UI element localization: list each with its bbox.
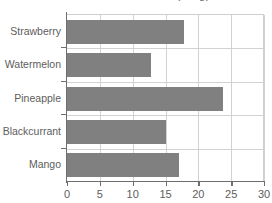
- y-axis-category-label: Blackcurrant: [3, 125, 61, 137]
- bar: [67, 87, 223, 111]
- x-axis-tick-label: 25: [225, 187, 237, 201]
- x-gridline: [264, 15, 265, 182]
- plot-area: [67, 14, 264, 181]
- bar: [67, 153, 179, 177]
- y-axis-category-label: Pineapple: [14, 92, 61, 104]
- x-axis-tick-label: 10: [127, 187, 139, 201]
- y-axis-labels: StrawberryWatermelonPineappleBlackcurran…: [0, 14, 63, 181]
- y-axis-category-label: Watermelon: [5, 58, 61, 70]
- x-axis-tick-label: 20: [192, 187, 204, 201]
- x-axis-tick: [264, 181, 265, 186]
- x-axis-tick: [100, 181, 101, 186]
- x-gridline: [231, 15, 232, 182]
- x-axis-tick: [198, 181, 199, 186]
- category-separator-line: [67, 48, 264, 49]
- bar: [67, 120, 166, 144]
- x-axis-tick: [166, 181, 167, 186]
- x-axis-tick: [133, 181, 134, 186]
- x-axis-tick-label: 15: [159, 187, 171, 201]
- x-axis-tick-label: 30: [258, 187, 270, 201]
- category-separator-line: [67, 82, 264, 83]
- y-axis-tick: [61, 47, 67, 48]
- chart-title: Fruit Smoothie Sales (in kg): [0, 0, 272, 1]
- x-axis-tick-label: 0: [64, 187, 70, 201]
- x-axis-tick-label: 5: [97, 187, 103, 201]
- bar: [67, 20, 184, 44]
- x-axis-tick: [231, 181, 232, 186]
- y-axis-tick: [61, 81, 67, 82]
- bar-chart-figure: Fruit Smoothie Sales (in kg) StrawberryW…: [0, 0, 272, 203]
- bar: [67, 53, 151, 77]
- category-separator-line: [67, 149, 264, 150]
- y-axis-category-label: Mango: [29, 158, 61, 170]
- x-axis-labels: 051015202530: [0, 187, 272, 203]
- y-axis-tick: [61, 114, 67, 115]
- y-axis-tick: [61, 148, 67, 149]
- y-axis-category-label: Strawberry: [10, 25, 61, 37]
- x-axis-tick: [67, 181, 68, 186]
- category-separator-line: [67, 115, 264, 116]
